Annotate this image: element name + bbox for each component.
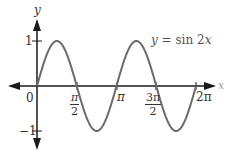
x-axis [8, 82, 216, 90]
three-pi-half-numerator: 3π [145, 92, 161, 105]
x-tick-label-pi-half: π 2 [70, 92, 79, 117]
x-axis-right-arrow-icon [204, 82, 216, 90]
x-tick-label-two-pi: 2π [196, 91, 212, 103]
x-axis-label: x [218, 80, 224, 91]
y-axis-label: y [34, 4, 41, 16]
origin-label: 0 [26, 92, 34, 104]
equation-body: = sin 2 [158, 33, 205, 47]
x-tick-label-pi: π [117, 91, 125, 103]
three-pi-half-denominator: 2 [145, 105, 161, 117]
pi-half-denominator: 2 [70, 105, 79, 117]
y-axis-down-arrow-icon [33, 138, 41, 150]
x-axis-left-arrow-icon [8, 82, 20, 90]
equation-annotation: y = sin 2x [151, 34, 211, 46]
pi-half-numerator: π [70, 92, 79, 105]
y-axis-up-arrow-icon [33, 19, 41, 31]
y-tick-label-neg-one: −1 [19, 125, 37, 137]
y-tick-label-one: 1 [25, 35, 33, 47]
x-tick-label-three-pi-half: 3π 2 [145, 92, 161, 117]
equation-y: y [151, 33, 158, 47]
equation-x: x [205, 33, 212, 47]
